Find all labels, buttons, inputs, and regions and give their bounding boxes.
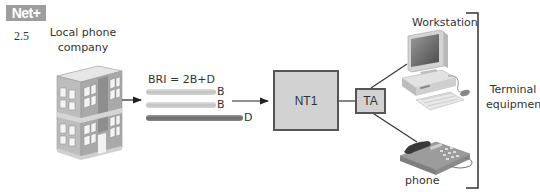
telephone-icon [400, 141, 472, 175]
terminal-equipment-line1: Terminal [486, 82, 540, 97]
nt1-device-box: NT1 [273, 70, 339, 131]
ta-label: TA [363, 94, 377, 108]
bri-channels [146, 89, 243, 121]
bri-formula-label: BRI = 2B+D [148, 72, 215, 87]
terminal-equipment-label: Terminal equipment [486, 82, 540, 112]
terminal-equipment-line2: equipment [486, 97, 540, 112]
phone-label: phone [405, 173, 439, 188]
b-channel-2-label: B [217, 97, 225, 112]
ta-device-box: TA [355, 88, 386, 114]
line-ta-to-workstation [371, 64, 407, 88]
b-channel-2-line [146, 102, 216, 108]
b-channel-1-line [146, 89, 216, 95]
workstation-label: Workstation [412, 15, 478, 30]
line-ta-to-phone [371, 112, 417, 142]
desktop-computer-icon [402, 30, 471, 110]
nt1-label: NT1 [295, 94, 318, 108]
d-channel-line [146, 115, 243, 121]
office-building-icon [57, 66, 122, 160]
d-channel-label: D [244, 110, 252, 125]
